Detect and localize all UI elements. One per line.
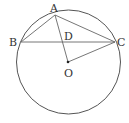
diagram-svg: A B C D O: [0, 0, 129, 123]
label-a: A: [49, 2, 59, 15]
label-c: C: [117, 36, 125, 49]
segment-ab: [21, 15, 55, 42]
label-d: D: [64, 30, 73, 43]
center-point-o: [67, 61, 70, 64]
label-b: B: [9, 36, 17, 49]
geometry-diagram: A B C D O: [0, 0, 129, 123]
label-o: O: [64, 67, 73, 80]
segment-oc: [68, 42, 115, 62]
